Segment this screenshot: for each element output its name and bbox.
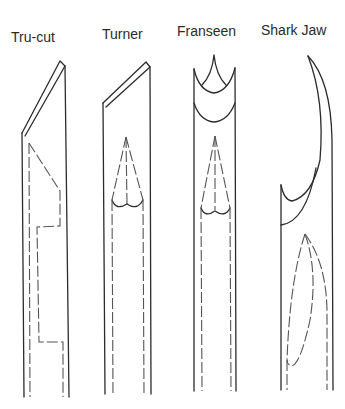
tru-cut-outer-left <box>22 133 24 397</box>
shark-jaw-outer-right <box>308 56 333 390</box>
franseen-cone-right <box>215 136 230 208</box>
needle-shark-jaw <box>281 56 333 390</box>
turner-cone-left <box>112 137 126 200</box>
needle-franseen <box>194 55 236 391</box>
turner-outer-left <box>103 103 105 394</box>
shark-jaw-upper-jaw <box>281 56 321 201</box>
turner-inner-left <box>112 200 113 394</box>
needle-tru-cut <box>22 61 69 397</box>
turner-inner-right <box>143 200 144 394</box>
turner-cone-center <box>126 137 127 205</box>
tru-cut-specimen-notch <box>29 143 63 397</box>
needle-turner <box>103 62 151 394</box>
franseen-inner-right <box>230 208 231 391</box>
shark-jaw-inner-right <box>305 234 327 390</box>
tru-cut-outer-right <box>65 66 69 397</box>
turner-bevel <box>103 62 150 107</box>
shark-jaw-lower-jaw <box>281 168 316 225</box>
turner-outer-right <box>150 67 151 394</box>
shark-jaw-chamber-left <box>287 234 305 360</box>
turner-cone-right <box>126 137 143 200</box>
franseen-crown-tip <box>202 55 226 85</box>
franseen-second-arc <box>194 103 235 122</box>
franseen-outer-right <box>235 68 236 391</box>
franseen-crown-arc <box>194 68 235 93</box>
tru-cut-inner-left <box>29 143 30 397</box>
tru-cut-bevel <box>22 61 65 136</box>
franseen-inner-left <box>201 208 202 391</box>
franseen-cone-left <box>201 136 215 208</box>
